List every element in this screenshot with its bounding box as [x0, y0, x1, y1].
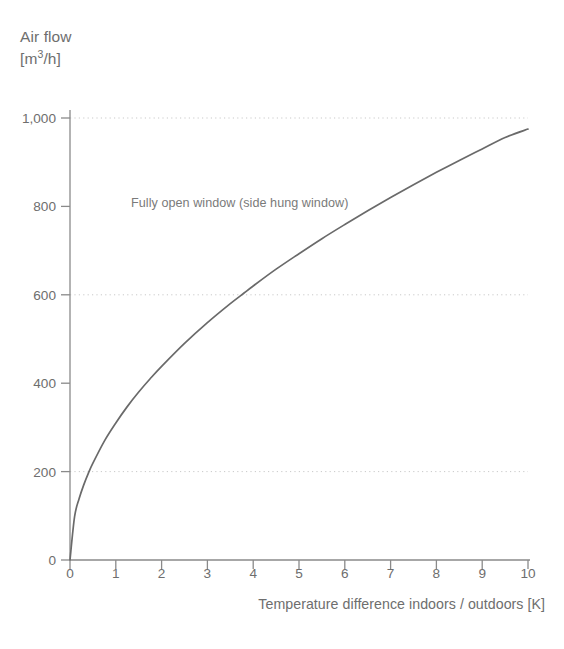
x-axis-tick-label: 4	[249, 566, 257, 581]
x-axis-tick-label: 2	[158, 566, 166, 581]
x-axis-tick-label: 8	[433, 566, 441, 581]
series-line-fully-open-window	[70, 129, 528, 560]
air-flow-chart: Air flow [m3/h] 02004006008001,000 01234…	[0, 0, 564, 649]
y-axis-tick-label: 400	[4, 376, 56, 391]
x-axis-tick-label: 6	[341, 566, 349, 581]
y-axis-tick-label: 0	[4, 553, 56, 568]
x-axis-tick-label: 1	[112, 566, 120, 581]
y-axis-tick-marks	[61, 118, 70, 560]
y-axis-tick-label: 800	[4, 199, 56, 214]
y-axis-tick-labels: 02004006008001,000	[0, 0, 56, 649]
x-axis-tick-label: 10	[520, 566, 535, 581]
x-axis-title: Temperature difference indoors / outdoor…	[0, 596, 545, 612]
x-axis-tick-label: 3	[204, 566, 212, 581]
x-axis-tick-label: 0	[66, 566, 74, 581]
y-axis-tick-label: 600	[4, 287, 56, 302]
x-axis-tick-label: 5	[295, 566, 303, 581]
plot-area	[0, 0, 564, 649]
x-axis-tick-label: 7	[387, 566, 395, 581]
series-annotation-label: Fully open window (side hung window)	[131, 196, 348, 210]
gridlines	[70, 118, 528, 472]
y-axis-tick-label: 200	[4, 464, 56, 479]
x-axis-tick-label: 9	[478, 566, 486, 581]
y-axis-tick-label: 1,000	[4, 111, 56, 126]
